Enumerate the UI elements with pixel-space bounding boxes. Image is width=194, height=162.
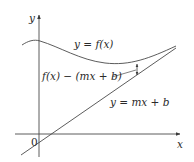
line-label: y = mx + b	[110, 97, 169, 108]
curve-label: y = f(x)	[74, 39, 113, 50]
x-axis-label: x	[177, 139, 183, 150]
difference-label: f(x) − (mx + b)	[42, 71, 122, 82]
origin-label: 0	[31, 137, 38, 148]
y-axis-label: y	[29, 13, 35, 24]
